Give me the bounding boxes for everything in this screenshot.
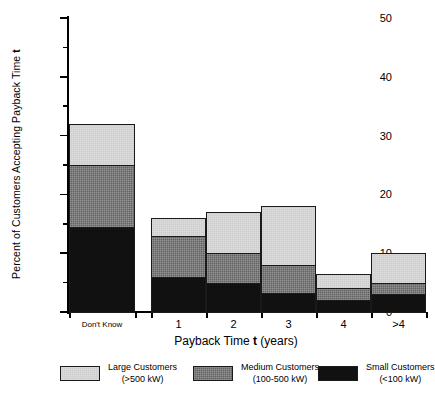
y-tick-major: [60, 76, 67, 78]
bar-segment: [151, 277, 206, 313]
x-tick: [426, 312, 428, 318]
x-tick-label: >4: [392, 320, 405, 329]
x-tick-label: 2: [230, 320, 236, 329]
bar-segment: [261, 293, 316, 313]
y-tick-label: 40: [352, 71, 392, 82]
legend-label-name: Large Customers: [108, 362, 177, 374]
y-tick-major: [60, 252, 67, 254]
bar-segment: [151, 236, 206, 278]
x-tick-label: 3: [285, 320, 291, 329]
y-tick-major: [60, 311, 67, 313]
legend-label-name: Medium Customers: [241, 362, 319, 374]
legend-swatch: [318, 366, 358, 381]
bar-segment: [69, 124, 135, 166]
bar-segment: [261, 206, 316, 266]
x-axis-title-symbol: t: [253, 334, 257, 348]
legend-label: Large Customers(>500 kW): [108, 362, 177, 385]
plot-area: 01020304050Don't Know1234>4: [67, 18, 404, 312]
chart-legend: Large Customers(>500 kW)Medium Customers…: [0, 362, 426, 396]
y-tick-minor: [63, 164, 68, 166]
bar-segment: [206, 212, 261, 254]
legend-label-detail: (>500 kW): [108, 374, 177, 386]
bar-segment: [69, 165, 135, 228]
legend-label: Medium Customers(100-500 kW): [241, 362, 319, 385]
y-tick-label: 30: [352, 130, 392, 141]
legend-label-detail: (100-500 kW): [241, 374, 319, 386]
y-tick-minor: [63, 47, 68, 49]
bar-segment: [371, 294, 426, 313]
y-tick-minor: [63, 282, 68, 284]
bar-segment: [316, 300, 371, 313]
y-tick-major: [60, 194, 67, 196]
x-tick-label: 4: [340, 320, 346, 329]
y-tick-minor: [63, 105, 68, 107]
x-axis-title-unit: (years): [260, 334, 297, 348]
bar-segment: [69, 227, 135, 313]
y-axis-title-text: Percent of Customers Accepting Payback T…: [10, 56, 22, 279]
legend-swatch: [60, 366, 100, 381]
y-tick-major: [60, 17, 67, 19]
y-tick-major: [60, 135, 67, 137]
x-axis-title-text: Payback Time: [174, 334, 249, 348]
legend-swatch: [193, 366, 233, 381]
legend-label-name: Small Customers: [366, 362, 435, 374]
y-axis-title: Percent of Customers Accepting Payback T…: [10, 14, 22, 314]
bar-segment: [316, 274, 371, 290]
y-tick-minor: [63, 223, 68, 225]
x-tick-label: 1: [175, 320, 181, 329]
bar-segment: [151, 218, 206, 237]
y-tick-label: 20: [352, 189, 392, 200]
bar-segment: [261, 265, 316, 294]
bar-segment: [206, 283, 261, 314]
y-axis-title-symbol: t: [10, 49, 22, 53]
legend-label-detail: (<100 kW): [366, 374, 435, 386]
bar-segment: [206, 253, 261, 284]
legend-label: Small Customers(<100 kW): [366, 362, 435, 385]
bar-segment: [371, 253, 426, 284]
x-tick: [135, 312, 137, 318]
y-tick-label: 50: [352, 13, 392, 24]
x-axis-title: Payback Time t (years): [67, 334, 405, 348]
x-tick-label: Don't Know: [82, 320, 123, 329]
